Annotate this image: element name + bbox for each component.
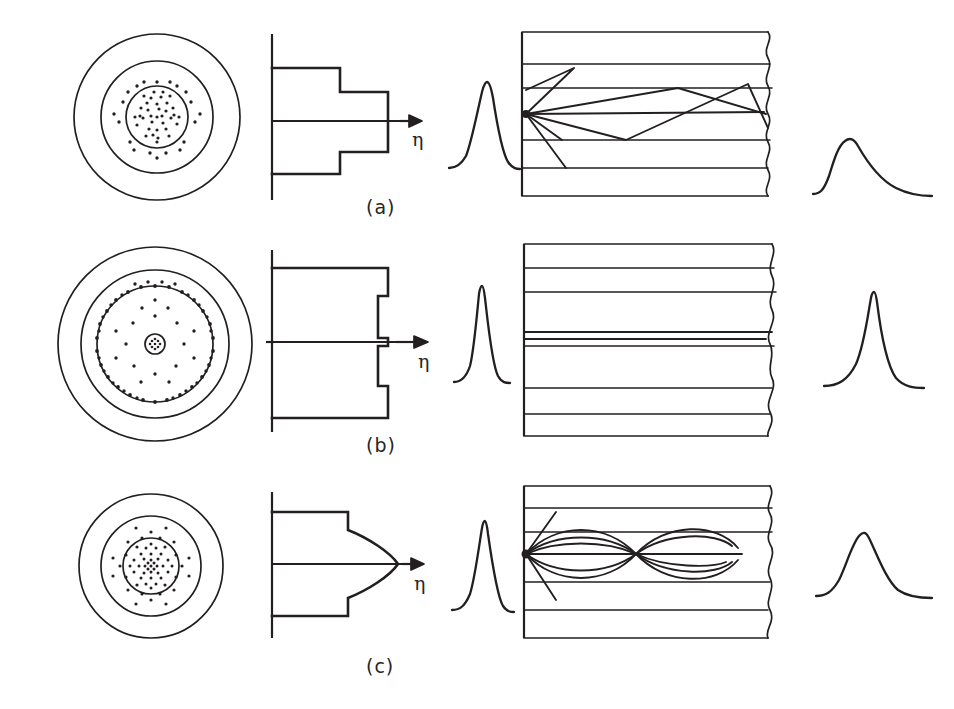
output-pulse-b xyxy=(812,288,932,392)
ray-propagation-c xyxy=(516,482,798,642)
index-profile-a: η xyxy=(262,30,462,205)
input-pulse-c xyxy=(448,516,518,616)
figure-row-c: η xyxy=(0,476,954,709)
output-pulse-a xyxy=(810,128,936,200)
eta-axis-label-c: η xyxy=(414,572,425,594)
figure-row-b: η xyxy=(0,236,954,476)
ray-propagation-b xyxy=(516,240,798,440)
fiber-cross-section-a xyxy=(62,22,252,212)
figure-row-a: η xyxy=(0,0,954,236)
panel-label-c: (c) xyxy=(366,655,394,677)
panel-label-b: (b) xyxy=(366,434,396,456)
output-pulse-c xyxy=(812,526,936,602)
input-pulse-b xyxy=(448,282,514,388)
index-profile-c: η xyxy=(262,490,462,642)
eta-axis-label-b: η xyxy=(418,350,429,372)
ray-propagation-a xyxy=(516,28,794,200)
panel-label-a: (a) xyxy=(366,196,395,218)
fiber-types-figure: η xyxy=(0,0,954,709)
input-pulse-a xyxy=(446,78,522,174)
fiber-cross-section-b xyxy=(48,238,262,450)
index-profile-b: η xyxy=(262,246,472,436)
eta-axis-label-a: η xyxy=(412,128,423,150)
fiber-cross-section-c xyxy=(68,484,234,648)
